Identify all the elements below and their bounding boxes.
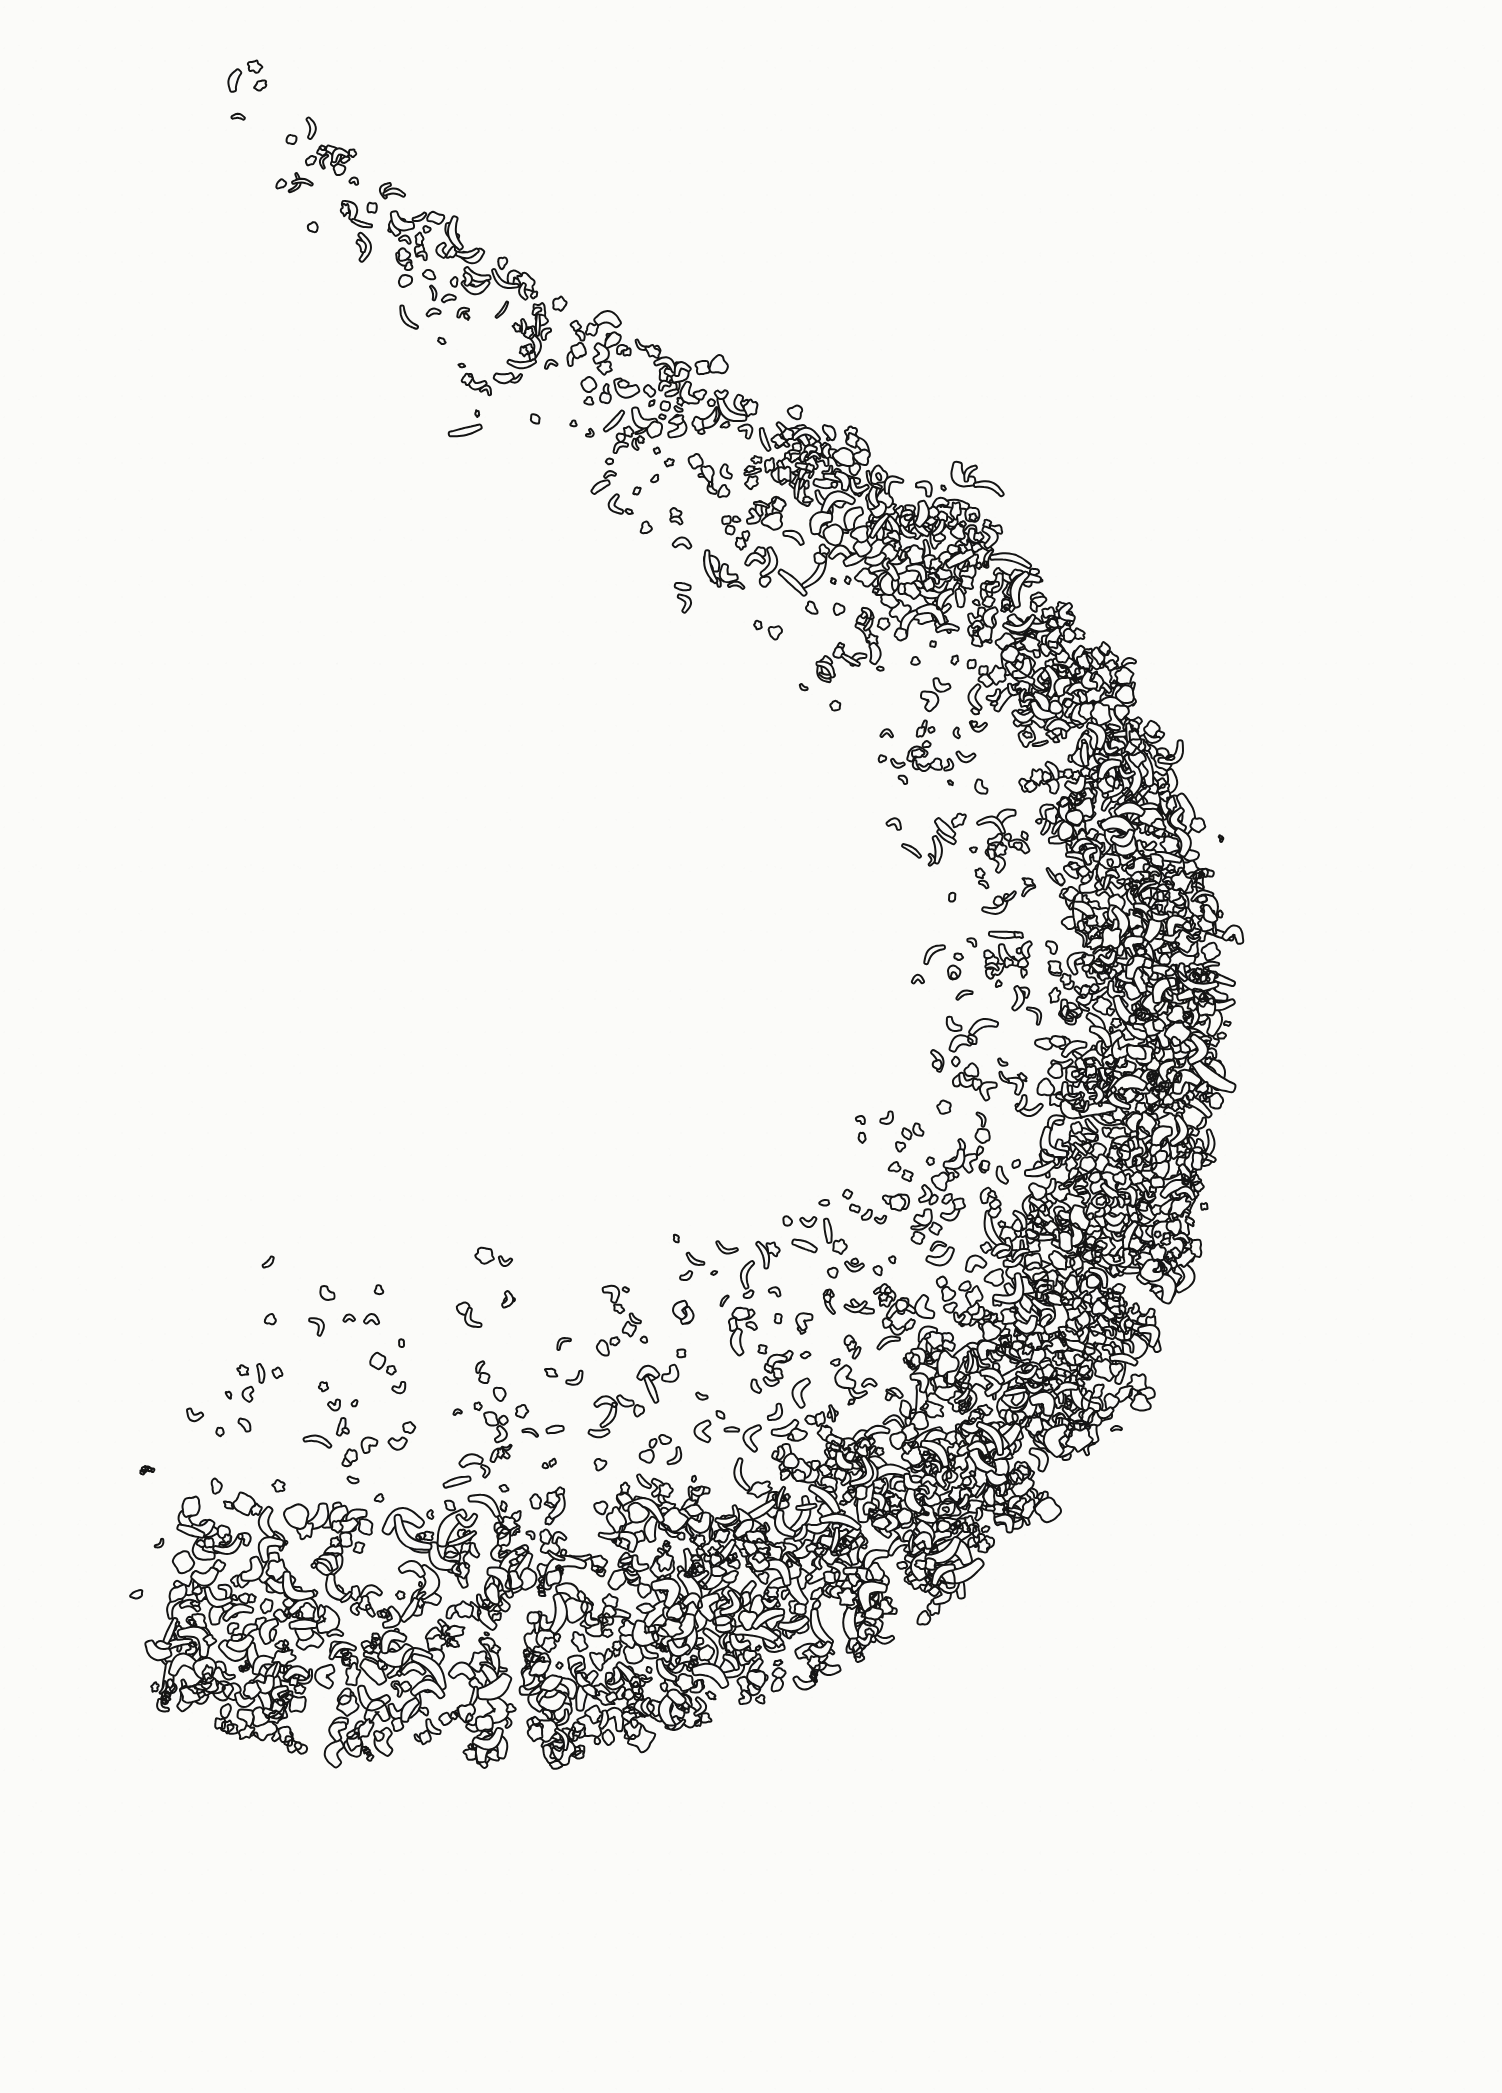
- ink-drawing-layer: [0, 0, 1502, 2093]
- artwork-canvas: Untitled (comma / crescent swarm) pen-an…: [0, 0, 1502, 2093]
- blob-group: [130, 61, 1243, 1769]
